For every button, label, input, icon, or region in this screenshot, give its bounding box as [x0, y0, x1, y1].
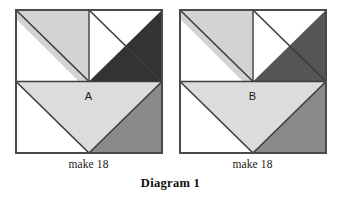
tile-b-graphic — [179, 9, 327, 155]
panel-b: B make 18 — [179, 9, 327, 170]
tile-b-wrapper: B — [179, 9, 327, 155]
tile-a-graphic — [15, 9, 163, 155]
tile-b-letter: B — [179, 90, 327, 102]
tile-a-make-label: make 18 — [69, 158, 109, 170]
panel-a: A make 18 — [15, 9, 163, 170]
tile-a-letter: A — [15, 90, 163, 102]
tile-a-wrapper: A — [15, 9, 163, 155]
diagram-figure: A make 18 — [0, 0, 341, 200]
tile-b-make-label: make 18 — [233, 158, 273, 170]
tile-panels: A make 18 — [0, 9, 341, 170]
diagram-caption: Diagram 1 — [0, 176, 341, 191]
